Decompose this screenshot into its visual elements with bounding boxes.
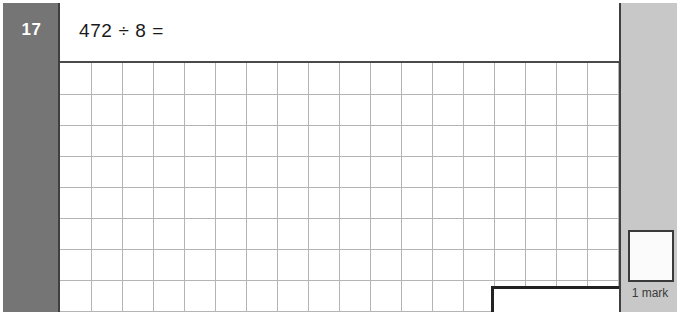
- working-out-grid[interactable]: [60, 63, 619, 312]
- question-number: 17: [3, 21, 60, 38]
- grid-line-horizontal: [60, 280, 619, 281]
- question-header: 472 ÷ 8 =: [60, 3, 619, 63]
- grid-line-horizontal: [60, 249, 619, 250]
- grid-line-horizontal: [60, 218, 619, 219]
- grid-line-horizontal: [60, 156, 619, 157]
- grid-line-horizontal: [60, 187, 619, 188]
- marks-panel: 1 mark: [619, 3, 677, 312]
- worksheet-question-page: 17 472 ÷ 8 = 1 mark: [0, 0, 682, 317]
- grid-line-horizontal: [60, 94, 619, 95]
- question-text: 472 ÷ 8 =: [79, 21, 164, 40]
- answer-box[interactable]: [491, 286, 619, 312]
- question-number-column: 17: [3, 3, 60, 312]
- mark-label: 1 mark: [621, 287, 679, 299]
- mark-award-box[interactable]: [628, 230, 674, 282]
- grid-line-horizontal: [60, 125, 619, 126]
